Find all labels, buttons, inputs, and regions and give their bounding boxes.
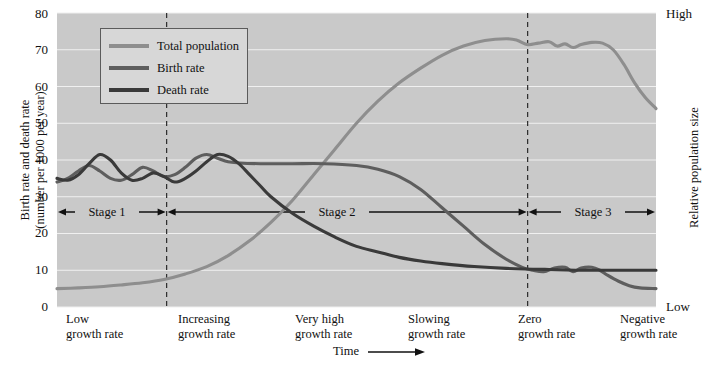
stage-label-2: Stage 2 xyxy=(305,206,369,219)
x-annotation-6-line2: growth rate xyxy=(620,327,677,342)
legend-swatch-death-rate xyxy=(109,88,149,92)
legend: Total population Birth rate Death rate xyxy=(100,28,248,104)
x-annotation-5-line1: Zero xyxy=(518,312,575,327)
x-annotation-2: Increasing growth rate xyxy=(178,312,235,342)
x-annotation-4: Slowing growth rate xyxy=(408,312,465,342)
x-annotation-6: Negative growth rate xyxy=(620,312,677,342)
x-annotation-3-line1: Very high xyxy=(295,312,352,327)
legend-label-birth-rate: Birth rate xyxy=(157,60,205,76)
x-annotation-4-line1: Slowing xyxy=(408,312,465,327)
legend-label-death-rate: Death rate xyxy=(157,82,209,98)
demographic-transition-figure: 80 70 60 50 40 30 20 10 0 Birth rate and… xyxy=(0,0,726,365)
x-annotation-1: Low growth rate xyxy=(66,312,123,342)
x-annotation-3-line2: growth rate xyxy=(295,327,352,342)
x-annotation-3: Very high growth rate xyxy=(295,312,352,342)
x-annotation-2-line2: growth rate xyxy=(178,327,235,342)
time-arrow xyxy=(368,348,425,356)
x-annotation-1-line1: Low xyxy=(66,312,123,327)
x-annotation-1-line2: growth rate xyxy=(66,327,123,342)
legend-label-total-population: Total population xyxy=(157,38,239,54)
x-annotation-6-line1: Negative xyxy=(620,312,677,327)
x-annotation-5-line2: growth rate xyxy=(518,327,575,342)
x-annotation-5: Zero growth rate xyxy=(518,312,575,342)
x-annotation-2-line1: Increasing xyxy=(178,312,235,327)
stage-label-3: Stage 3 xyxy=(561,206,625,219)
legend-swatch-birth-rate xyxy=(109,66,149,70)
time-axis-label: Time xyxy=(333,345,359,358)
legend-swatch-total-population xyxy=(109,44,149,48)
stage-label-1: Stage 1 xyxy=(75,206,139,219)
x-annotation-4-line2: growth rate xyxy=(408,327,465,342)
